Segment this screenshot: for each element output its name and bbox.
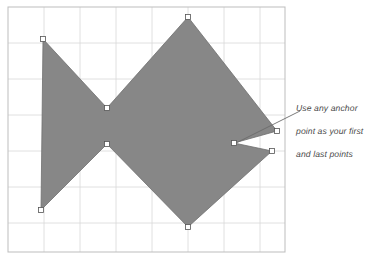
anchor-center-lower[interactable] xyxy=(105,142,110,147)
anchor-top-apex[interactable] xyxy=(186,15,191,20)
annotation-line-1: Use any anchor xyxy=(296,103,372,115)
anchor-center-upper[interactable] xyxy=(105,106,110,111)
anchor-bottom-left[interactable] xyxy=(39,208,44,213)
anchor-right-lower-tip[interactable] xyxy=(270,149,275,154)
anchor-right-upper-tip[interactable] xyxy=(275,129,280,134)
annotation-line-2: point as your first xyxy=(296,126,372,138)
anchor-bottom-apex[interactable] xyxy=(186,225,191,230)
annotation-line-3: and last points xyxy=(296,149,372,161)
annotation-text: Use any anchor point as your first and l… xyxy=(296,91,372,172)
illustration-canvas-screenshot: Use any anchor point as your first and l… xyxy=(0,0,372,269)
anchor-top-left[interactable] xyxy=(41,37,46,42)
anchor-notch[interactable] xyxy=(232,141,237,146)
